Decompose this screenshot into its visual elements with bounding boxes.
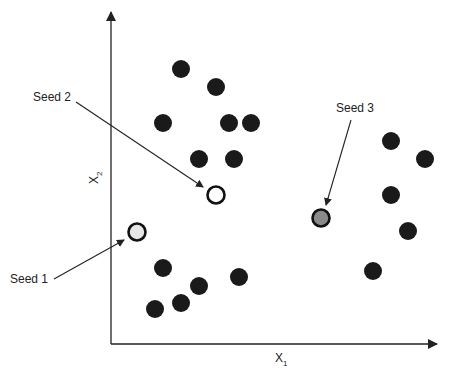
x-axis-label: X1 [275, 351, 288, 368]
seed-2-label: Seed 2 [33, 90, 71, 104]
data-point [230, 268, 248, 286]
seed-2-point [208, 187, 225, 204]
seed-3-arrow [326, 120, 351, 205]
data-point [382, 186, 400, 204]
y-axis-label: X2 [87, 171, 104, 184]
data-point [416, 150, 434, 168]
data-point [207, 78, 225, 96]
data-point [146, 300, 164, 318]
seed-points [129, 187, 330, 241]
data-point [190, 277, 208, 295]
data-point [225, 150, 243, 168]
seed-1-arrow [54, 240, 124, 279]
kmeans-seed-diagram: X1 X2 Seed 1Seed 2Seed 3 [0, 0, 451, 376]
data-point [382, 132, 400, 150]
data-point [190, 150, 208, 168]
seed-3-label: Seed 3 [336, 101, 374, 115]
data-point [154, 259, 172, 277]
data-point [172, 294, 190, 312]
data-point [242, 114, 260, 132]
data-point [154, 114, 172, 132]
data-point [364, 262, 382, 280]
seed-labels: Seed 1Seed 2Seed 3 [10, 90, 374, 286]
seed-1-label: Seed 1 [10, 272, 48, 286]
data-points [146, 60, 434, 318]
seed-3-point [313, 210, 330, 227]
data-point [399, 222, 417, 240]
seed-arrows [54, 102, 351, 279]
data-point [172, 60, 190, 78]
seed-1-point [129, 224, 146, 241]
data-point [220, 114, 238, 132]
